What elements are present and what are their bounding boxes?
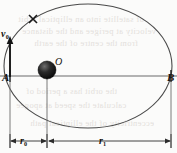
center-o-label: O — [55, 57, 62, 67]
radius-outer-subscript: 1 — [103, 140, 106, 147]
orbit-diagram-svg — [0, 0, 177, 153]
dimension-arrowhead-r1-right — [165, 139, 171, 144]
velocity-label: v0 — [1, 29, 9, 39]
central-mass-body — [38, 61, 56, 79]
dimension-arrowhead-r0-right — [41, 139, 47, 144]
radius-inner-subscript: 0 — [24, 140, 27, 147]
velocity-symbol: v — [1, 28, 5, 39]
point-b-label: B — [167, 72, 174, 83]
velocity-subscript: 0 — [6, 33, 9, 40]
dimension-arrowhead-r0-left — [10, 139, 16, 144]
radius-outer-label: r1 — [99, 136, 106, 146]
dimension-arrowhead-r1-left — [48, 139, 54, 144]
orbit-figure: of satellite into an elliptical orbit ve… — [0, 0, 177, 153]
point-a-label: A — [2, 72, 9, 83]
radius-inner-label: r0 — [20, 136, 27, 146]
